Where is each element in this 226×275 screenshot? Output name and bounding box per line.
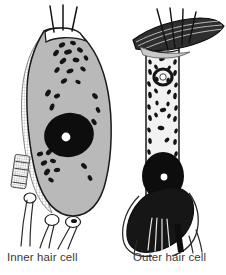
- ohc-nucleolus: [161, 174, 168, 181]
- caption-inner-hair-cell: Inner hair cell: [0, 250, 113, 264]
- caption-outer-hair-cell: Outer hair cell: [113, 250, 226, 264]
- caption-row: Inner hair cell Outer hair cell: [0, 250, 226, 275]
- hair-cell-figure: [0, 0, 226, 275]
- ihc-nucleolus: [62, 133, 71, 142]
- hair-cell-diagram-svg: [0, 0, 226, 275]
